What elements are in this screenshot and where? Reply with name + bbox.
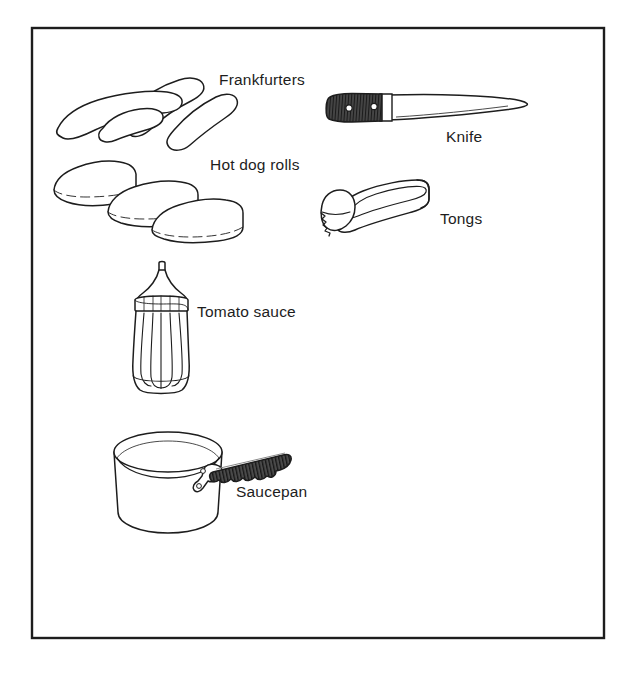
- knife-rivet: [371, 103, 377, 109]
- frankfurters-illustration: [57, 78, 238, 150]
- knife-rivet: [346, 105, 352, 111]
- label-tomato-sauce: Tomato sauce: [197, 304, 296, 320]
- tomato-sauce-bottle-illustration: [133, 262, 189, 394]
- tongs-illustration: [321, 180, 429, 236]
- illustration-sheet: Frankfurters Hot dog rolls Knife Tongs T…: [0, 0, 634, 674]
- label-hot-dog-rolls: Hot dog rolls: [210, 157, 300, 173]
- knife-illustration: [326, 94, 527, 123]
- illustration-canvas: [0, 0, 634, 674]
- label-frankfurters: Frankfurters: [219, 72, 305, 88]
- label-tongs: Tongs: [440, 211, 482, 227]
- label-saucepan: Saucepan: [236, 484, 307, 500]
- label-knife: Knife: [446, 129, 482, 145]
- hot-dog-rolls-illustration: [54, 161, 243, 242]
